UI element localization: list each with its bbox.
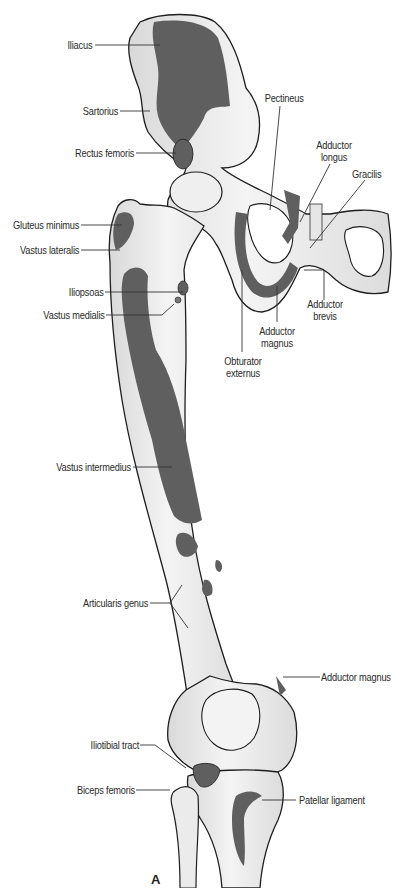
femoral-head [170,172,222,212]
label-sartorius: Sartorius [83,105,118,117]
label-adductor-brevis-line1: Adductor [303,298,347,310]
fibula [171,787,198,888]
label-iliotibial-tract: Iliotibial tract [90,739,139,751]
label-adductor-longus-line2: longus [311,151,357,163]
iliopsoas-attachment [178,281,188,295]
label-rectus-femoris: Rectus femoris [75,147,134,159]
label-iliopsoas: Iliopsoas [69,286,104,298]
label-iliacus: Iliacus [67,39,92,51]
label-gracilis: Gracilis [352,168,381,180]
tibia-fibula [171,763,283,888]
anatomy-figure-femur-anterior: Iliacus Sartorius Rectus femoris Pectine… [0,0,400,888]
patella [202,689,260,750]
label-patellar-ligament: Patellar ligament [299,794,365,806]
label-adductor-longus-line1: Adductor [311,139,357,151]
label-gluteus-minimus: Gluteus minimus [13,219,79,231]
label-obturator-externus-line2: externus [219,367,267,379]
bone-illustration [0,0,400,888]
label-vastus-medialis: Vastus medialis [44,309,105,321]
label-adductor-magnus-upper-line2: magnus [255,337,299,349]
rectus-femoris-attachment [173,139,193,169]
label-obturator-externus-line1: Obturator [219,355,267,367]
label-adductor-magnus-lower: Adductor magnus [321,671,391,683]
label-vastus-lateralis: Vastus lateralis [20,244,79,256]
label-pectineus: Pectineus [265,92,304,104]
articularis-genus-attachment [202,580,213,596]
panel-letter: A [151,872,160,887]
label-articularis-genus: Articularis genus [83,597,148,609]
label-adductor-magnus-upper-line1: Adductor [255,325,299,337]
label-vastus-intermedius: Vastus intermedius [56,461,131,473]
label-biceps-femoris: Biceps femoris [77,784,135,796]
label-adductor-brevis-line2: brevis [303,310,347,322]
